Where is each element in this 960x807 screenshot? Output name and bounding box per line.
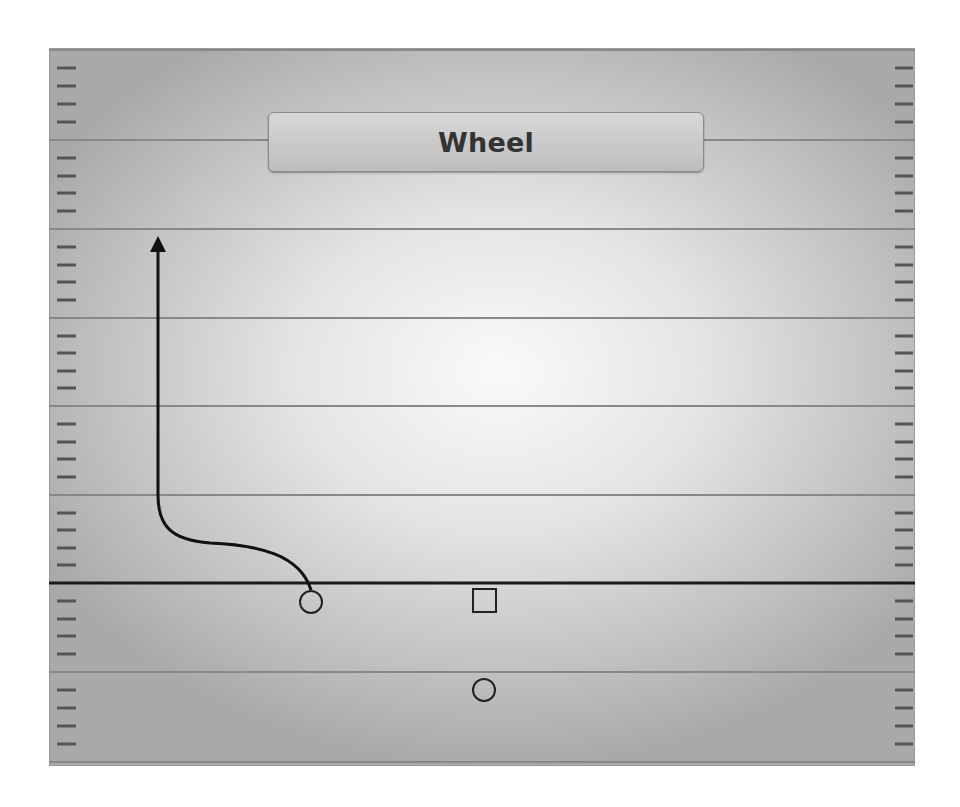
route-arrow-icon <box>150 236 166 252</box>
play-title-box: Wheel <box>268 112 704 172</box>
receiver-circle-icon <box>300 591 322 613</box>
quarterback-circle-icon <box>473 679 495 701</box>
center-square-icon <box>473 589 496 612</box>
wheel-route-path <box>158 252 311 590</box>
play-title: Wheel <box>438 127 534 158</box>
